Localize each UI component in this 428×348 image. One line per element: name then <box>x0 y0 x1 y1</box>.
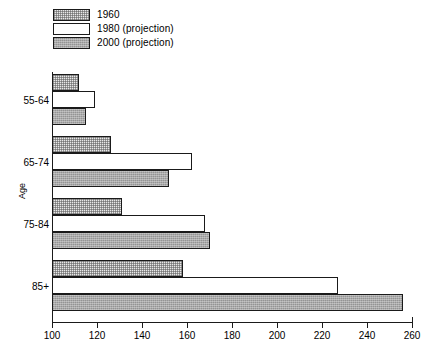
plot-area: Age 100120140160180200220240260 55-6465-… <box>0 0 428 348</box>
bar-55-64-1980 <box>52 91 95 108</box>
bar-65-74-1960 <box>52 136 111 153</box>
x-tick-160 <box>187 323 188 328</box>
x-tick-label-160: 160 <box>179 330 196 341</box>
bar-85+-1960 <box>52 260 183 277</box>
x-tick-label-220: 220 <box>314 330 331 341</box>
x-tick-200 <box>277 323 278 328</box>
y-axis-title: Age <box>17 183 27 199</box>
x-tick-240 <box>367 323 368 328</box>
x-axis-cap-left <box>52 317 53 323</box>
x-tick-220 <box>322 323 323 328</box>
bar-85+-2000 <box>52 294 403 311</box>
x-tick-label-180: 180 <box>224 330 241 341</box>
x-tick-label-100: 100 <box>44 330 61 341</box>
x-axis-cap-right <box>412 317 413 323</box>
bar-chart: 1960 1980 (projection) 2000 (projection)… <box>0 0 428 348</box>
bar-65-74-2000 <box>52 170 169 187</box>
x-tick-label-260: 260 <box>404 330 421 341</box>
x-tick-label-200: 200 <box>269 330 286 341</box>
x-tick-140 <box>142 323 143 328</box>
bar-75-84-2000 <box>52 232 210 249</box>
y-axis-label-55-64: 55-64 <box>23 94 49 105</box>
bar-75-84-1980 <box>52 215 205 232</box>
bar-75-84-1960 <box>52 198 122 215</box>
x-tick-label-240: 240 <box>359 330 376 341</box>
x-tick-120 <box>97 323 98 328</box>
bar-65-74-1980 <box>52 153 192 170</box>
y-axis-label-85+: 85+ <box>32 280 49 291</box>
y-axis-label-75-84: 75-84 <box>23 218 49 229</box>
x-tick-label-120: 120 <box>89 330 106 341</box>
x-tick-260 <box>412 323 413 328</box>
x-tick-180 <box>232 323 233 328</box>
x-tick-100 <box>52 323 53 328</box>
y-axis-label-65-74: 65-74 <box>23 156 49 167</box>
bar-55-64-2000 <box>52 108 86 125</box>
x-tick-label-140: 140 <box>134 330 151 341</box>
bar-55-64-1960 <box>52 74 79 91</box>
bar-85+-1980 <box>52 277 338 294</box>
